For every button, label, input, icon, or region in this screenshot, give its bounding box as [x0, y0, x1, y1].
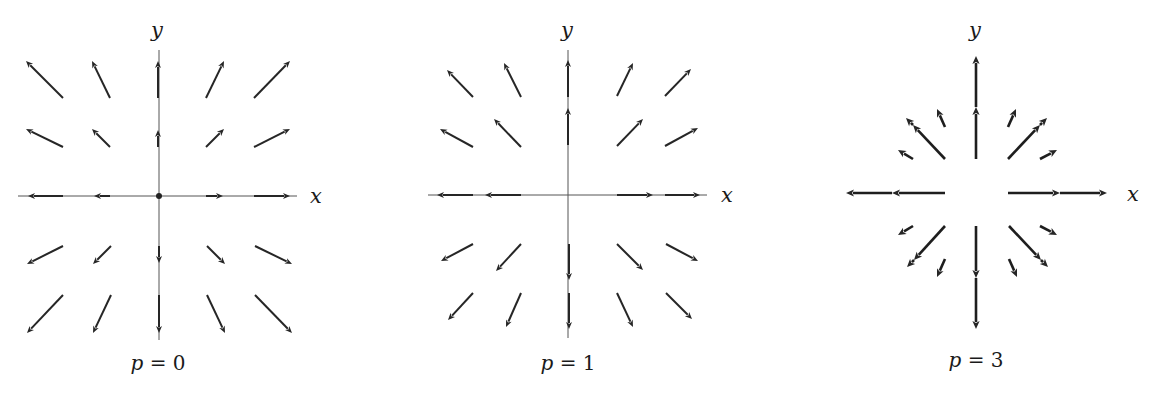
arrow-shaft	[500, 244, 521, 267]
arrowhead-icon	[1099, 189, 1107, 196]
arrow-shaft	[97, 246, 111, 260]
vector-arrow	[155, 61, 161, 98]
arrow-shaft	[451, 74, 473, 97]
arrow-shaft	[919, 226, 945, 255]
y-axis-label: y	[150, 18, 164, 42]
vector-arrow	[1008, 109, 1016, 127]
vector-arrow	[665, 128, 698, 146]
vector-arrow	[92, 61, 110, 98]
vector-arrow	[566, 244, 572, 280]
vector-arrow	[27, 246, 63, 264]
arrow-shaft	[32, 246, 63, 261]
vector-arrow	[447, 70, 473, 97]
vector-arrow	[207, 295, 225, 333]
arrow-shaft	[904, 226, 913, 231]
arrow-shaft	[617, 244, 639, 266]
arrow-shaft	[665, 73, 687, 96]
vector-arrow	[206, 129, 224, 147]
arrowhead-icon	[972, 270, 979, 278]
vector-arrows	[846, 56, 1107, 329]
vector-arrow	[666, 293, 692, 319]
arrowhead-icon	[1052, 189, 1060, 196]
panel-caption: p = 3	[948, 348, 1003, 372]
arrow-shaft	[911, 123, 913, 125]
vector-field-figure: x y p = 0 x y p = 1 x y p = 3	[0, 0, 1158, 394]
vector-arrow	[440, 129, 473, 147]
arrowhead-icon	[566, 322, 572, 329]
arrow-shaft	[207, 295, 222, 328]
vector-arrow	[506, 293, 521, 327]
vector-arrow	[1040, 150, 1057, 159]
caption-variable: p	[540, 351, 553, 375]
arrow-shaft	[1041, 260, 1043, 262]
arrowhead-icon	[892, 189, 900, 196]
arrow-shaft	[665, 131, 693, 146]
vector-arrow	[156, 246, 162, 263]
vector-arrow	[972, 226, 979, 278]
arrow-shaft	[918, 130, 945, 159]
arrow-shaft	[904, 154, 913, 159]
arrow-shaft	[1040, 226, 1051, 232]
arrowhead-icon	[972, 56, 979, 64]
vector-arrow	[206, 61, 224, 98]
vector-arrow	[1040, 226, 1057, 235]
y-axis-label: y	[560, 18, 574, 42]
vector-arrow	[504, 63, 521, 97]
vector-arrow	[617, 63, 633, 96]
caption-value: 3	[991, 348, 1004, 372]
caption-variable: p	[948, 348, 961, 372]
caption-equals: =	[961, 348, 990, 372]
caption-value: 0	[173, 351, 186, 375]
arrow-shaft	[1008, 115, 1013, 127]
vector-arrow	[254, 129, 290, 147]
arrowhead-icon	[972, 107, 979, 115]
arrow-shaft	[912, 260, 914, 262]
arrowhead-icon	[155, 130, 161, 137]
vector-arrow	[496, 244, 521, 271]
arrow-shaft	[96, 133, 110, 147]
panel-p-equals-0: x y p = 0	[18, 18, 322, 375]
arrowhead-icon	[846, 189, 854, 196]
arrow-shaft	[206, 66, 221, 98]
arrow-shaft	[617, 293, 630, 322]
arrow-shaft	[666, 244, 693, 258]
vector-arrow	[27, 295, 63, 333]
vector-arrow	[206, 193, 223, 199]
vector-arrow	[207, 246, 225, 264]
y-axis-label: y	[968, 18, 982, 42]
vector-arrow	[937, 259, 945, 277]
vector-arrow	[892, 189, 945, 196]
arrow-shaft	[254, 65, 286, 98]
vector-arrow	[1009, 226, 1041, 260]
vector-arrow	[1008, 189, 1060, 196]
arrow-shaft	[1008, 130, 1035, 159]
arrow-shaft	[617, 68, 630, 96]
vector-arrow	[254, 61, 290, 98]
arrow-shaft	[1040, 123, 1042, 125]
arrow-shaft	[206, 133, 220, 147]
caption-equals: =	[143, 351, 172, 375]
vector-arrow	[898, 150, 913, 159]
arrow-shaft	[31, 132, 63, 147]
x-axis-label: x	[1127, 182, 1139, 206]
arrow-shaft	[254, 132, 285, 147]
arrow-shaft	[940, 115, 945, 127]
caption-variable: p	[130, 351, 143, 375]
panel-p-equals-3: x y p = 3	[846, 18, 1139, 372]
vector-arrow	[494, 119, 521, 147]
vector-arrow	[1040, 259, 1048, 267]
vector-arrow	[914, 226, 945, 260]
vector-arrow	[617, 244, 643, 270]
arrow-shaft	[498, 123, 521, 147]
arrow-shaft	[452, 293, 473, 316]
vector-arrow	[972, 107, 979, 159]
vector-arrow	[937, 109, 945, 127]
vector-arrow	[1009, 259, 1017, 277]
arrow-shaft	[95, 66, 110, 98]
arrow-shaft	[940, 259, 945, 271]
vector-arrow	[898, 226, 913, 235]
arrow-shaft	[446, 244, 473, 258]
arrow-shaft	[445, 132, 473, 147]
vector-arrow	[93, 295, 111, 333]
vector-arrow	[906, 118, 914, 126]
